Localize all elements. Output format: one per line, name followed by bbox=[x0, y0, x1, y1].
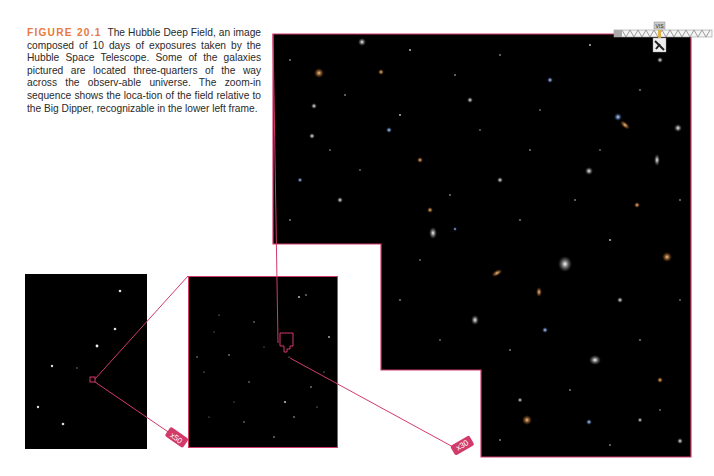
zoom-label-x50: x50 bbox=[165, 427, 189, 449]
deep-field-image bbox=[273, 34, 691, 457]
svg-text:VIS: VIS bbox=[655, 23, 664, 29]
zoom-label-x30: x30 bbox=[450, 435, 475, 456]
telescope-icon: VIS bbox=[612, 20, 714, 54]
zoom-sequence-overlay: x50 x30 bbox=[0, 0, 714, 476]
